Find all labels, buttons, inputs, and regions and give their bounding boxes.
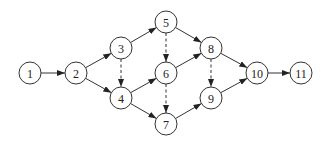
node-2: 2 bbox=[65, 62, 87, 84]
edge-4-to-7 bbox=[131, 104, 157, 119]
node-1: 1 bbox=[19, 62, 41, 84]
node-label: 1 bbox=[27, 67, 33, 81]
node-label: 2 bbox=[73, 67, 79, 81]
node-10: 10 bbox=[246, 62, 268, 84]
edge-2-to-3 bbox=[86, 53, 112, 67]
node-4: 4 bbox=[110, 87, 132, 109]
node-label: 5 bbox=[163, 16, 169, 30]
node-label: 4 bbox=[118, 92, 124, 106]
edge-5-to-8 bbox=[176, 28, 202, 43]
edge-8-to-10 bbox=[221, 53, 248, 67]
edge-7-to-9 bbox=[176, 104, 202, 119]
node-label: 9 bbox=[208, 92, 214, 106]
edge-4-to-6 bbox=[131, 78, 157, 92]
node-label: 6 bbox=[163, 67, 169, 81]
node-3: 3 bbox=[110, 37, 132, 59]
node-label: 7 bbox=[163, 118, 169, 132]
node-label: 10 bbox=[251, 67, 263, 81]
node-9: 9 bbox=[200, 87, 222, 109]
node-5: 5 bbox=[155, 11, 177, 33]
node-6: 6 bbox=[155, 62, 177, 84]
network-diagram: 1234567891011 bbox=[0, 0, 329, 146]
node-11: 11 bbox=[290, 62, 312, 84]
edge-9-to-10 bbox=[221, 78, 248, 92]
edge-6-to-8 bbox=[176, 53, 202, 67]
node-8: 8 bbox=[200, 37, 222, 59]
edge-3-to-5 bbox=[131, 28, 157, 43]
edge-2-to-4 bbox=[86, 78, 112, 92]
node-label: 3 bbox=[118, 42, 124, 56]
node-7: 7 bbox=[155, 113, 177, 135]
node-label: 8 bbox=[208, 42, 214, 56]
node-label: 11 bbox=[295, 67, 307, 81]
